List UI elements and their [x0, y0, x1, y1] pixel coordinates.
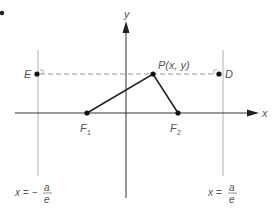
left-directrix-numerator: a: [44, 182, 50, 193]
label-p: P(x, y): [158, 59, 190, 71]
left-directrix-lhs: x = −: [14, 187, 37, 198]
y-axis-label: y: [123, 8, 131, 20]
label-f1-subscript: 1: [87, 129, 91, 136]
corner-marker: [0, 11, 4, 15]
right-directrix-lhs: x =: [207, 187, 222, 198]
x-axis-label: x: [261, 107, 268, 119]
y-axis-arrow-icon: [123, 21, 130, 33]
focal-segments: [87, 74, 178, 113]
label-d: D: [225, 68, 233, 80]
right-angle-marker-e: [40, 70, 43, 74]
left-directrix-denominator: e: [44, 194, 50, 205]
point-e: [34, 71, 39, 76]
label-e: E: [24, 68, 32, 80]
x-axis-arrow-icon: [247, 110, 259, 117]
ellipse-diagram: y x E D P(x, y) F 1 F 2 x = − a e x = a …: [0, 0, 279, 215]
right-directrix-denominator: e: [229, 194, 235, 205]
point-f1: [84, 110, 89, 115]
point-p: [150, 71, 155, 76]
right-directrix-numerator: a: [229, 182, 235, 193]
label-f2-subscript: 2: [177, 129, 181, 136]
point-d: [216, 71, 221, 76]
point-f2: [175, 110, 180, 115]
